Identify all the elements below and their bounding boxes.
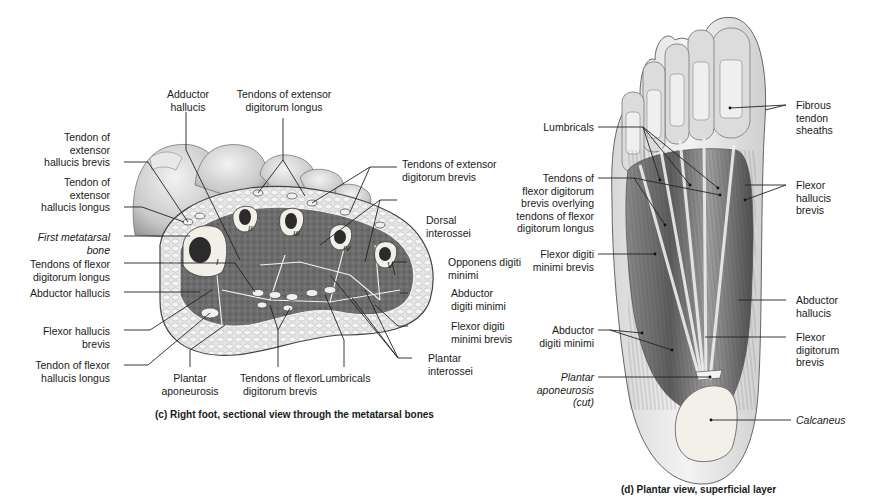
caption-figure-c: (c) Right foot, sectional view through t… [155, 409, 434, 420]
label-plantar-aponeurosis: Plantar aponeurosis [158, 372, 222, 397]
label-first-metatarsal-bone: First metatarsal bone [14, 231, 110, 256]
label-abductor-digiti-minimi-d: Abductor digiti minimi [520, 324, 594, 349]
label-tendon-flexor-hallucis-longus: Tendon of flexor hallucis longus [14, 359, 110, 384]
label-calcaneus: Calcaneus [796, 414, 866, 427]
label-fdb-tendons-overlying-fdl: Tendons of flexor digitorum brevis overl… [500, 172, 594, 235]
label-tendon-extensor-hallucis-longus: Tendon of extensor hallucis longus [20, 176, 110, 214]
bone-numeral-2: II [248, 223, 252, 236]
label-flexor-digitorum-brevis-d: Flexor digitorum brevis [796, 331, 866, 369]
label-adductor-hallucis: Adductor hallucis [156, 88, 220, 113]
plantar-view-illustration [598, 17, 791, 484]
label-tendons-extensor-digitorum-longus: Tendons of extensor digitorum longus [228, 88, 340, 113]
bone-numeral-5: V [387, 259, 393, 272]
label-flexor-digiti-minimi-brevis-d: Flexor digiti minimi brevis [510, 248, 594, 273]
label-flexor-hallucis-brevis-d: Flexor hallucis brevis [796, 179, 866, 217]
label-tendons-flexor-digitorum-longus: Tendons of flexor digitorum longus [14, 258, 110, 283]
bone-numeral-3: III [293, 228, 300, 241]
caption-figure-d: (d) Plantar view, superficial layer [621, 484, 776, 495]
label-abductor-digiti-minimi-c: Abductor digiti minimi [451, 287, 531, 312]
label-fibrous-tendon-sheaths: Fibrous tendon sheaths [796, 99, 866, 137]
bone-numeral-4: IV [343, 243, 351, 256]
label-tendon-extensor-hallucis-brevis: Tendon of extensor hallucis brevis [20, 131, 110, 169]
label-lumbricals-c: Lumbricals [310, 372, 380, 385]
sectional-view-illustration [124, 112, 433, 367]
label-plantar-aponeurosis-cut: Plantar aponeurosis (cut) [514, 371, 594, 409]
label-lumbricals-d: Lumbricals [520, 121, 594, 134]
bone-numeral-1: I [216, 256, 219, 269]
label-flexor-hallucis-brevis: Flexor hallucis brevis [14, 325, 110, 350]
label-abductor-hallucis: Abductor hallucis [10, 287, 110, 300]
label-dorsal-interossei: Dorsal interossei [426, 214, 496, 239]
anatomy-illustrations [0, 0, 875, 501]
label-plantar-interossei: Plantar interossei [428, 352, 498, 377]
label-abductor-hallucis-d: Abductor hallucis [796, 294, 866, 319]
label-flexor-digiti-minimi-brevis-c: Flexor digiti minimi brevis [451, 320, 531, 345]
